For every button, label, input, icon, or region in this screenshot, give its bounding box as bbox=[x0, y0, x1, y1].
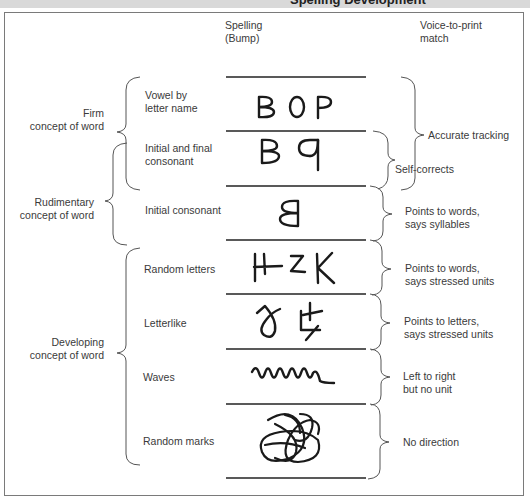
bracket-left-right-icon bbox=[370, 349, 390, 405]
bracket-no-direction-icon bbox=[368, 404, 389, 479]
bracket-self-corrects-icon bbox=[373, 131, 395, 189]
bracket-firm-icon bbox=[117, 77, 140, 190]
sample-initial-b-icon bbox=[280, 201, 298, 226]
sample-random-letters-icon bbox=[254, 253, 334, 283]
left-brackets bbox=[105, 77, 140, 465]
sample-letterlike-icon bbox=[257, 303, 322, 340]
bracket-syllables-icon bbox=[370, 186, 392, 241]
sample-waves-icon bbox=[252, 368, 334, 383]
bracket-developing-icon bbox=[117, 248, 140, 465]
sample-random-marks-icon bbox=[261, 414, 319, 462]
sample-bq-icon bbox=[262, 140, 318, 170]
right-brackets bbox=[368, 77, 424, 479]
bracket-accurate-icon bbox=[401, 77, 424, 190]
bracket-rudimentary-icon bbox=[105, 143, 127, 245]
bracket-letters-stressed-icon bbox=[370, 294, 390, 350]
sample-bop-icon bbox=[259, 97, 331, 118]
diagram-graphics bbox=[0, 0, 530, 504]
bracket-words-stressed-icon bbox=[370, 240, 391, 295]
